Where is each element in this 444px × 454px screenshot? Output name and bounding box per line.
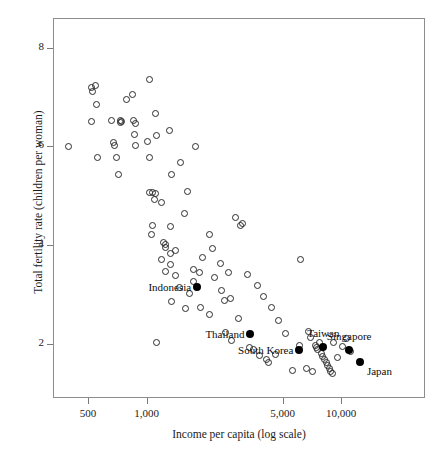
data-point	[152, 110, 159, 117]
data-point	[289, 367, 296, 374]
data-point	[113, 154, 120, 161]
data-point	[88, 118, 95, 125]
data-point	[172, 247, 179, 254]
data-point	[196, 269, 203, 276]
data-point	[151, 196, 158, 203]
data-point	[168, 298, 175, 305]
data-point	[297, 256, 304, 263]
data-point	[206, 231, 213, 238]
data-point	[65, 143, 72, 150]
highlighted-data-point	[356, 358, 364, 366]
data-point	[117, 119, 124, 126]
data-point	[192, 143, 199, 150]
data-point	[172, 272, 179, 279]
highlighted-data-point	[246, 330, 254, 338]
data-point	[177, 159, 184, 166]
data-point	[244, 271, 251, 278]
data-point	[225, 269, 232, 276]
data-point	[129, 91, 136, 98]
data-point	[158, 256, 165, 263]
data-point	[158, 199, 165, 206]
data-point	[131, 131, 138, 138]
data-point	[227, 295, 234, 302]
data-point	[265, 359, 272, 366]
data-point	[149, 222, 156, 229]
data-point	[232, 214, 239, 221]
data-point	[94, 154, 101, 161]
highlighted-data-point	[319, 343, 327, 351]
data-point	[166, 127, 173, 134]
point-annotation-south-korea: South Korea	[238, 344, 293, 356]
data-point	[92, 82, 99, 89]
point-annotation-japan: Japan	[367, 365, 392, 377]
data-point	[334, 354, 341, 361]
data-point	[275, 317, 282, 324]
data-point	[153, 132, 160, 139]
data-point	[167, 261, 174, 268]
data-point	[268, 304, 275, 311]
data-point	[329, 370, 336, 377]
data-point	[282, 330, 289, 337]
data-point	[211, 274, 218, 281]
data-points-layer	[0, 0, 444, 454]
data-point	[146, 76, 153, 83]
data-point	[239, 220, 246, 227]
data-point	[197, 304, 204, 311]
data-point	[254, 282, 261, 289]
data-point	[182, 305, 189, 312]
data-point	[153, 339, 160, 346]
data-point	[184, 188, 191, 195]
data-point	[115, 171, 122, 178]
data-point	[218, 287, 225, 294]
point-annotation-thailand: Thailand	[205, 328, 244, 340]
data-point	[108, 117, 115, 124]
data-point	[217, 260, 224, 267]
data-point	[148, 231, 155, 238]
data-point	[206, 311, 213, 318]
data-point	[168, 171, 175, 178]
point-annotation-singapore: Singapore	[327, 330, 372, 342]
data-point	[199, 254, 206, 261]
data-point	[146, 154, 153, 161]
data-point	[93, 101, 100, 108]
scatter-plot-figure: Total fertility rate (children per woman…	[0, 0, 444, 454]
point-annotation-indonesia: Indonesia	[148, 281, 191, 293]
highlighted-data-point	[345, 346, 353, 354]
data-point	[132, 120, 139, 127]
data-point	[309, 368, 316, 375]
data-point	[209, 245, 216, 252]
data-point	[167, 223, 174, 230]
data-point	[260, 293, 267, 300]
data-point	[235, 315, 242, 322]
data-point	[144, 138, 151, 145]
data-point	[111, 142, 118, 149]
data-point	[132, 142, 139, 149]
data-point	[123, 96, 130, 103]
highlighted-data-point	[193, 283, 201, 291]
data-point	[181, 210, 188, 217]
highlighted-data-point	[295, 346, 303, 354]
data-point	[162, 268, 169, 275]
